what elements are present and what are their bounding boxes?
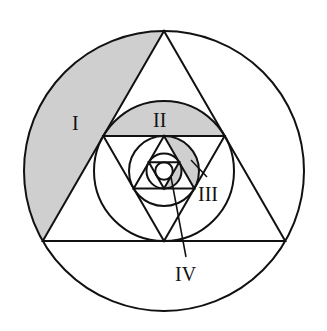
diagram-canvas: I II III IV (0, 0, 327, 331)
fifth-circle (155, 162, 173, 180)
label-region-i: I (72, 112, 79, 134)
label-region-iii: III (198, 183, 218, 205)
label-region-ii: II (153, 109, 166, 131)
nested-geometry-figure: I II III IV (0, 0, 327, 331)
label-region-iv: IV (175, 263, 197, 285)
